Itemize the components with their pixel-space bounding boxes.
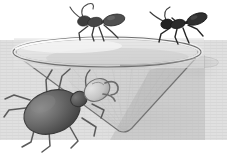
illustration-canvas: Black and white illustration showing two… [0, 0, 227, 162]
ant-left-gaster [102, 12, 126, 28]
illustration-svg [0, 0, 227, 162]
